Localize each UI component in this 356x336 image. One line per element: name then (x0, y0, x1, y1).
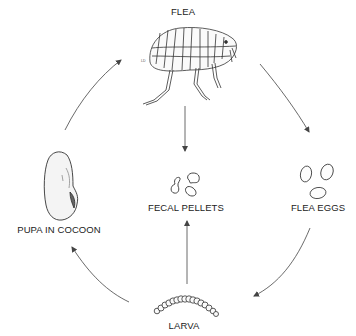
pupa-cocoon-illustration (44, 152, 77, 220)
larva-illustration (154, 296, 218, 317)
fecal-pellets-illustration (171, 173, 199, 196)
stage-label-flea: FLEA (171, 6, 195, 17)
flea-life-cycle-diagram: LD (0, 0, 356, 336)
stage-label-flea-eggs: FLEA EGGS (291, 202, 345, 213)
stage-label-fecal-pellets: FECAL PELLETS (148, 202, 224, 213)
stage-label-pupa-in-cocoon: PUPA IN COCOON (17, 224, 101, 235)
flea-illustration: LD (141, 27, 237, 105)
stage-label-larva: LARVA (169, 320, 200, 331)
diagram-artwork: LD (0, 0, 356, 336)
flea-eggs-illustration (299, 162, 335, 199)
cycle-arrows (65, 60, 310, 302)
svg-text:LD: LD (141, 59, 146, 63)
